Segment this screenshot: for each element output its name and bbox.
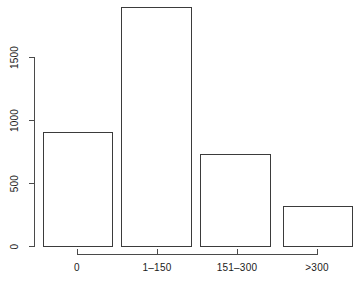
y-axis-label-500: 500: [9, 169, 20, 199]
x-axis-tick-3: [317, 249, 318, 254]
x-axis-label-3: >300: [277, 262, 357, 273]
y-axis-line: [34, 57, 35, 247]
bar-category-1: [121, 7, 192, 247]
bar-chart: 0 500 1000 1500 0 1–150 151–300 >300: [0, 0, 360, 284]
bar-category-2: [200, 154, 271, 247]
bar-category-3: [283, 206, 353, 247]
y-axis-label-1000: 1000: [9, 106, 20, 136]
x-axis-tick-1: [157, 249, 158, 254]
x-axis-label-2: 151–300: [197, 262, 277, 273]
x-axis-line: [77, 254, 318, 255]
x-axis-tick-0: [77, 249, 78, 254]
y-axis-tick-0: [29, 246, 34, 247]
bar-category-0: [43, 132, 113, 247]
y-axis-tick-1000: [29, 120, 34, 121]
y-axis-label-1500: 1500: [9, 43, 20, 73]
y-axis-label-0: 0: [9, 232, 20, 262]
barplot-screenshot: 0 500 1000 1500 0 1–150 151–300 >300: [0, 0, 360, 284]
y-axis-tick-1500: [29, 57, 34, 58]
x-axis-label-1: 1–150: [117, 262, 197, 273]
x-axis-label-0: 0: [37, 262, 117, 273]
y-axis-tick-500: [29, 183, 34, 184]
x-axis-tick-2: [237, 249, 238, 254]
